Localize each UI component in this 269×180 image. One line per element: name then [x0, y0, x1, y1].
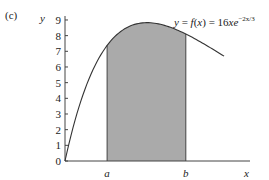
x-tick-label-a: a: [104, 167, 110, 179]
x-axis-label: x: [243, 167, 249, 179]
y-tick-label: 2: [56, 124, 62, 136]
panel-label: (c): [5, 9, 18, 22]
y-tick-label: 6: [56, 61, 62, 73]
y-tick-label: 5: [56, 77, 62, 89]
y-tick-label: 7: [56, 45, 62, 57]
function-exponent: −2x/3: [238, 15, 255, 23]
y-tick-label: 3: [56, 108, 62, 120]
y-axis-ticks: 0123456789: [56, 14, 69, 167]
function-area-chart: (c) 0123456789 y x a b y = f(x) = 16xe−2…: [0, 0, 269, 180]
shaded-area-a-to-b: [107, 23, 186, 161]
x-tick-label-b: b: [183, 167, 189, 179]
y-axis-label: y: [39, 12, 45, 24]
y-tick-label: 0: [56, 155, 62, 167]
y-tick-label: 1: [56, 139, 62, 151]
y-tick-label: 9: [56, 14, 62, 26]
y-tick-label: 8: [56, 30, 62, 42]
y-tick-label: 4: [56, 92, 62, 104]
function-label: y = f(x) = 16xe−2x/3: [173, 15, 255, 29]
